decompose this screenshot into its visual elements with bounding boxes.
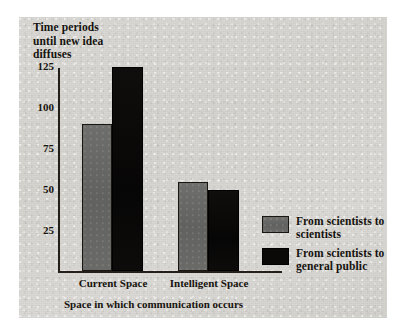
x-tick-label-intelligent-space: Intelligent Space [170, 277, 249, 289]
legend-label-scientists-to-scientists: From scientists to scientists [296, 215, 384, 242]
bar-intelligent-space-scientists [178, 182, 208, 271]
y-tick-label-75: 75 [26, 142, 54, 154]
legend-label-line-2: general public [296, 260, 384, 273]
legend-swatch-black-icon [262, 248, 289, 265]
x-axis-line [58, 271, 282, 273]
legend-label-line-2: scientists [296, 228, 384, 241]
bar-groups [60, 68, 282, 271]
y-tick-label-25: 25 [26, 224, 54, 236]
bar-intelligent-space-public [208, 190, 239, 271]
legend-item-scientists-to-scientists: From scientists to scientists [262, 215, 394, 242]
legend-swatch-gray-icon [262, 216, 289, 233]
y-tick-label-100: 100 [26, 101, 54, 113]
x-tick-label-current-space: Current Space [79, 277, 148, 289]
bar-group-intelligent-space [178, 68, 246, 271]
legend-label-line-1: From scientists to [296, 247, 384, 260]
legend-label-scientists-to-public: From scientists to general public [296, 247, 384, 274]
bar-current-space-public [112, 67, 143, 271]
legend-item-scientists-to-public: From scientists to general public [262, 247, 394, 274]
chart-legend: From scientists to scientists From scien… [262, 215, 394, 279]
x-axis-title: Space in which communication occurs [64, 298, 243, 310]
bar-group-current-space [82, 68, 150, 271]
plot-area: 25 50 75 100 125 Current Space Int [0, 0, 406, 332]
y-tick-label-125: 125 [26, 60, 54, 72]
bar-current-space-scientists [82, 124, 112, 271]
figure-bar-chart: Time periods until new idea diffuses 25 … [0, 0, 406, 332]
y-tick-label-50: 50 [26, 183, 54, 195]
legend-label-line-1: From scientists to [296, 215, 384, 228]
